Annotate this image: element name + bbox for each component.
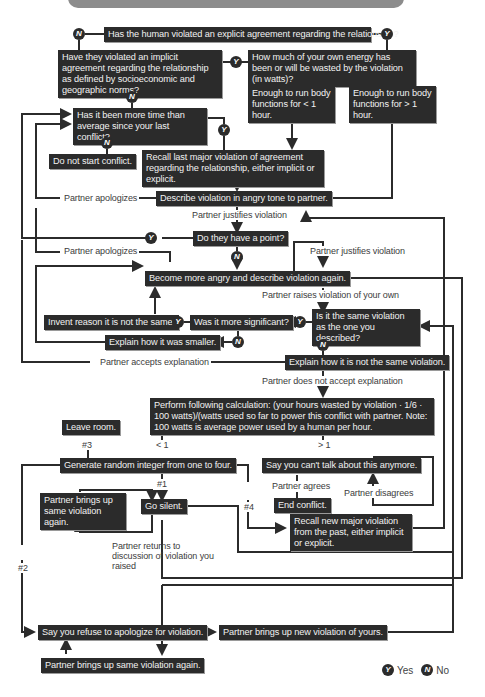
node-more-than-hour: Enough to run body functions for > 1 hou… <box>349 86 436 123</box>
node-describe-angry: Describe violation in angry tone to part… <box>156 191 332 206</box>
yes-badge-icon: Y <box>294 316 306 328</box>
node-explain-not-same: Explain how it is not the same violation… <box>285 355 449 370</box>
label-partner-agrees: Partner agrees <box>270 481 332 491</box>
no-badge-icon: N <box>421 664 433 676</box>
node-calculation: Perform following calculation: (your hou… <box>150 398 434 435</box>
label-partner-apologizes-1: Partner apologizes <box>62 193 139 203</box>
label-option-4: #4 <box>242 502 256 512</box>
node-recall-new: Recall new major violation from the past… <box>290 514 412 551</box>
node-leave-room: Leave room. <box>62 420 120 435</box>
label-less-than-one: < 1 <box>154 440 170 450</box>
node-less-than-hour: Enough to run body functions for < 1 hou… <box>248 86 335 123</box>
node-refuse-apologize: Say you refuse to apologize for violatio… <box>38 625 207 640</box>
yes-badge-icon: Y <box>381 28 393 40</box>
legend-yes-label: Yes <box>397 665 413 676</box>
legend: YYesNNo <box>382 664 457 676</box>
node-time-since-conflict: Has it been more time than average since… <box>73 108 207 145</box>
node-explicit-agreement: Has the human violated an explicit agree… <box>104 27 371 42</box>
no-badge-icon: N <box>231 251 243 263</box>
node-end-conflict: End conflict. <box>274 498 331 513</box>
no-badge-icon: N <box>317 339 329 351</box>
node-do-not-start: Do not start conflict. <box>49 154 136 169</box>
node-more-angry: Become more angry and describe violation… <box>145 271 350 286</box>
label-partner-justifies-2: Partner justifies violation <box>308 246 407 256</box>
label-partner-accepts: Partner accepts explanation <box>98 357 211 367</box>
label-option-1: #1 <box>155 479 169 489</box>
node-invent-reason: Invent reason it is not the same. <box>44 315 179 330</box>
legend-no-label: No <box>436 665 449 676</box>
node-same-violation: Is it the same violation as the one you … <box>312 309 420 346</box>
yes-badge-icon: Y <box>382 664 394 676</box>
node-cant-talk: Say you can't talk about this anymore. <box>262 458 421 473</box>
node-brings-new: Partner brings up new violation of yours… <box>219 625 387 640</box>
label-not-accept: Partner does not accept explanation <box>260 376 405 386</box>
label-partner-justifies-1: Partner justifies violation <box>190 210 289 220</box>
yes-badge-icon: Y <box>218 124 230 136</box>
node-brings-same-final: Partner brings up same violation again. <box>41 658 204 673</box>
yes-badge-icon: Y <box>230 56 242 68</box>
label-partner-returns: Partner returns to discussion of violati… <box>110 541 224 571</box>
no-badge-icon: N <box>73 28 85 40</box>
label-partner-apologizes-2: Partner apologizes <box>62 246 139 256</box>
label-option-3: #3 <box>80 440 94 450</box>
label-partner-disagrees: Partner disagrees <box>342 488 415 498</box>
node-more-significant: Was it more significant? <box>190 315 293 330</box>
node-brings-same-loop: Partner brings up same violation again. <box>40 493 126 530</box>
node-energy-wasted: How much of your own energy has been or … <box>248 50 416 87</box>
node-go-silent: Go silent. <box>141 499 187 514</box>
no-badge-icon: N <box>126 91 138 103</box>
no-badge-icon: N <box>101 137 113 149</box>
label-raises-own: Partner raises violation of your own <box>260 290 401 300</box>
node-implicit-agreement: Have they violated an implicit agreement… <box>58 50 222 98</box>
yes-badge-icon: Y <box>145 232 157 244</box>
node-recall-last-violation: Recall last major violation of agreement… <box>142 150 324 187</box>
yes-badge-icon: Y <box>172 316 184 328</box>
no-badge-icon: N <box>232 336 244 348</box>
label-greater-than-one: > 1 <box>316 440 332 450</box>
node-explain-smaller: Explain how it was smaller. <box>105 335 220 350</box>
node-have-point: Do they have a point? <box>193 231 288 246</box>
label-option-2: #2 <box>16 563 30 573</box>
node-random-integer: Generate random integer from one to four… <box>60 458 236 473</box>
